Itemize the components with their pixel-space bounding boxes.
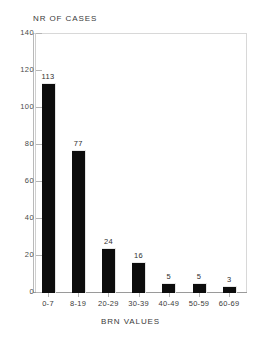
- bar-value-label: 24: [96, 237, 120, 246]
- bar-value-label: 113: [36, 72, 60, 81]
- bar-value-label: 16: [127, 251, 151, 260]
- bar-chart-figure: NR OF CASES 020406080100120140 113772416…: [0, 0, 261, 341]
- x-axis-tick-label: 50-59: [182, 299, 216, 308]
- bar: [42, 83, 56, 293]
- y-axis-tick: 0: [0, 292, 45, 293]
- bar: [72, 150, 86, 293]
- y-axis-tick: 40: [0, 218, 45, 219]
- x-axis-tick-mark: [229, 293, 230, 297]
- y-axis-tick-label: 40: [25, 213, 34, 222]
- y-axis-tick-label: 120: [20, 65, 34, 74]
- x-axis-tick-label: 0-7: [31, 299, 65, 308]
- x-axis-tick-mark: [48, 293, 49, 297]
- x-axis-tick-mark: [108, 293, 109, 297]
- bar-value-label: 5: [157, 272, 181, 281]
- bar-value-label: 77: [66, 139, 90, 148]
- x-axis-tick-mark: [199, 293, 200, 297]
- y-axis-tick-label: 100: [20, 102, 34, 111]
- x-axis-tick-mark: [139, 293, 140, 297]
- x-axis-tick-label: 30-39: [122, 299, 156, 308]
- x-axis-tick-mark: [169, 293, 170, 297]
- x-axis-tick-label: 40-49: [152, 299, 186, 308]
- y-axis-tick: 60: [0, 181, 45, 182]
- y-axis-tick: 120: [0, 70, 45, 71]
- y-axis-tick: 20: [0, 255, 45, 256]
- y-axis-tick-label: 60: [25, 176, 34, 185]
- x-axis-tick-label: 60-69: [212, 299, 246, 308]
- bar: [162, 283, 176, 293]
- y-axis-tick-label: 80: [25, 139, 34, 148]
- y-axis-tick: 140: [0, 33, 45, 34]
- y-axis-tick-mark: [36, 33, 42, 34]
- bar: [132, 262, 146, 293]
- x-axis-tick-mark: [78, 293, 79, 297]
- y-axis-tick-mark: [36, 70, 42, 71]
- x-axis-caption: BRN VALUES: [0, 317, 261, 326]
- y-axis-tick: 100: [0, 107, 45, 108]
- y-axis-caption: NR OF CASES: [33, 14, 97, 23]
- y-axis-tick-label: 20: [25, 250, 34, 259]
- y-axis-tick-label: 0: [29, 287, 34, 296]
- bar: [193, 283, 207, 293]
- bar-value-label: 5: [187, 272, 211, 281]
- x-axis-tick-label: 8-19: [61, 299, 95, 308]
- x-axis-tick-label: 20-29: [91, 299, 125, 308]
- bar: [102, 248, 116, 293]
- y-axis-tick-label: 140: [20, 28, 34, 37]
- bar-value-label: 3: [217, 275, 241, 284]
- y-axis-tick: 80: [0, 144, 45, 145]
- bar: [223, 286, 237, 293]
